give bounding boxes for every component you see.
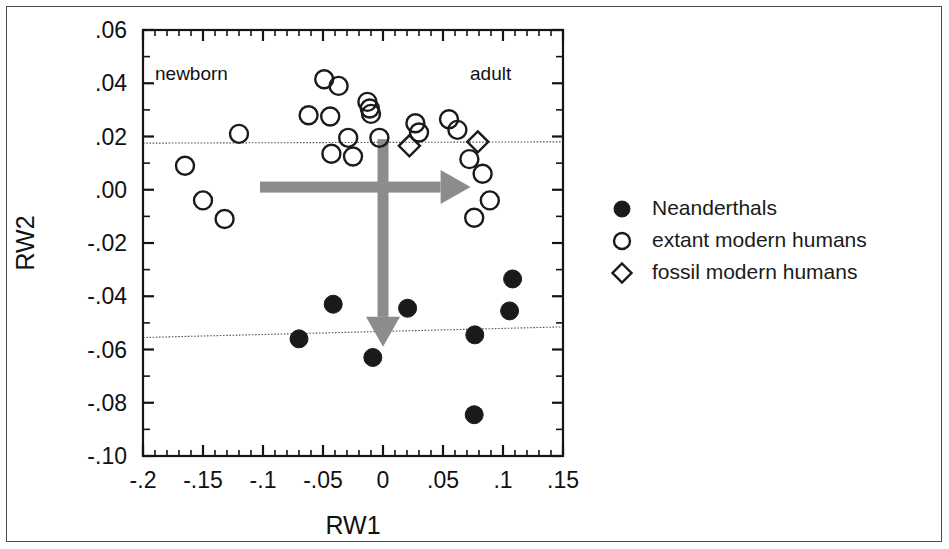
- x-tick-label: .1: [493, 467, 512, 493]
- legend: Neanderthalsextant modern humansfossil m…: [613, 196, 867, 283]
- y-axis-tick-labels: .06.04.02.00-.02-.04-.06-.08-.10: [87, 17, 127, 469]
- data-point: [176, 157, 194, 175]
- data-point: [481, 191, 499, 209]
- y-axis-title: RW2: [11, 215, 39, 270]
- data-point: [324, 295, 342, 313]
- data-point: [344, 147, 362, 165]
- figure-page: -.2-.15-.1-.050.05.1.15 .06.04.02.00-.02…: [0, 0, 949, 549]
- x-axis-tick-labels: -.2-.15-.1-.050.05.1.15: [130, 467, 579, 493]
- y-tick-label: -.10: [87, 443, 127, 469]
- data-point: [290, 330, 308, 348]
- y-tick-label: -.06: [87, 337, 127, 363]
- y-tick-label: .04: [95, 70, 127, 96]
- x-axis-title: RW1: [325, 511, 380, 539]
- x-tick-label: -.15: [183, 467, 223, 493]
- x-tick-label: -.1: [250, 467, 277, 493]
- plot-border: [143, 30, 563, 456]
- adult-label: adult: [470, 63, 512, 84]
- data-point: [466, 326, 484, 344]
- data-point: [330, 77, 348, 95]
- data-points: [176, 70, 522, 423]
- modern-human-mean-line: [143, 142, 563, 143]
- x-tick-label: 0: [377, 467, 390, 493]
- data-point: [322, 145, 340, 163]
- y-tick-label: -.04: [87, 283, 127, 309]
- x-tick-label: .15: [547, 467, 579, 493]
- trajectory-arrows: [260, 139, 471, 347]
- legend-symbol-filled-circle: [614, 201, 630, 217]
- legend-label: Neanderthals: [652, 196, 777, 219]
- series-filled-circle: [290, 270, 522, 424]
- reference-lines: [143, 142, 563, 338]
- plot-frame: [143, 30, 563, 456]
- legend-symbol-open-diamond: [613, 264, 632, 283]
- legend-label: fossil modern humans: [652, 260, 857, 283]
- ontogeny-horizontal-arrow-head: [441, 170, 471, 204]
- neanderthal-mean-line: [143, 327, 563, 338]
- legend-label: extant modern humans: [652, 228, 867, 251]
- ontogeny-horizontal-arrow-shaft: [260, 182, 441, 193]
- data-point: [194, 191, 212, 209]
- legend-symbol-open-circle: [614, 233, 630, 249]
- data-point: [216, 210, 234, 228]
- data-point: [501, 302, 519, 320]
- data-point: [474, 165, 492, 183]
- data-point: [321, 108, 339, 126]
- y-tick-label: .00: [95, 177, 127, 203]
- series-open-circle: [176, 70, 499, 228]
- ontogeny-vertical-arrow-shaft: [378, 139, 389, 317]
- y-tick-label: -.02: [87, 230, 127, 256]
- data-point: [399, 135, 420, 156]
- x-tick-label: -.2: [130, 467, 157, 493]
- data-point: [300, 106, 318, 124]
- data-point: [339, 129, 357, 147]
- data-point: [230, 125, 248, 143]
- data-point: [504, 270, 522, 288]
- data-point: [399, 299, 417, 317]
- data-point: [364, 348, 382, 366]
- data-point: [465, 209, 483, 227]
- y-tick-label: -.08: [87, 390, 127, 416]
- x-tick-label: -.05: [303, 467, 343, 493]
- x-tick-label: .05: [427, 467, 459, 493]
- data-point: [465, 406, 483, 424]
- y-tick-label: .02: [95, 124, 127, 150]
- y-tick-label: .06: [95, 17, 127, 43]
- data-point: [460, 150, 478, 168]
- newborn-label: newborn: [155, 63, 228, 84]
- scatter-plot: -.2-.15-.1-.050.05.1.15 .06.04.02.00-.02…: [0, 0, 949, 549]
